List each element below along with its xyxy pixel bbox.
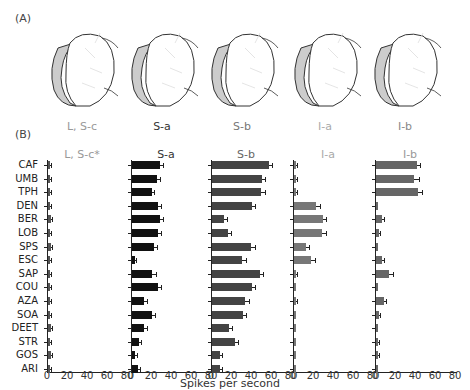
y-tick xyxy=(290,274,293,275)
y-tick xyxy=(208,355,211,356)
y-tick xyxy=(290,301,293,302)
y-tick xyxy=(372,192,375,193)
bar xyxy=(212,270,260,278)
bar xyxy=(294,229,322,237)
error-cap xyxy=(51,340,52,345)
x-tick-label: 60 xyxy=(343,370,363,381)
bar xyxy=(132,215,160,223)
y-tick xyxy=(44,165,47,166)
y-tick xyxy=(372,179,375,180)
y-tick xyxy=(128,369,131,370)
x-tick-label: 40 xyxy=(161,370,181,381)
error-cap xyxy=(227,217,228,222)
y-tick xyxy=(208,342,211,343)
bar xyxy=(132,175,157,183)
sensilla-label: I-a xyxy=(285,120,365,133)
bar xyxy=(212,215,224,223)
y-tick xyxy=(208,274,211,275)
bar xyxy=(212,175,262,183)
y-tick xyxy=(372,301,375,302)
error-cap xyxy=(51,204,52,209)
row-label: TPH xyxy=(0,186,38,198)
y-tick xyxy=(128,165,131,166)
y-tick xyxy=(44,301,47,302)
y-tick xyxy=(44,342,47,343)
error-cap xyxy=(161,204,162,209)
y-tick xyxy=(128,301,131,302)
x-axis-label: Spikes per second xyxy=(180,377,280,390)
error-cap xyxy=(52,353,53,358)
labellum-drawing-2 xyxy=(200,18,280,113)
y-tick xyxy=(372,355,375,356)
y-tick xyxy=(208,219,211,220)
bar xyxy=(376,202,378,210)
x-tick-label: 40 xyxy=(405,370,425,381)
error-cap xyxy=(297,163,298,168)
row-label: GOS xyxy=(0,349,38,361)
bar xyxy=(294,311,296,319)
error-cap xyxy=(136,258,137,263)
error-cap xyxy=(297,299,298,304)
bar xyxy=(212,256,242,264)
error-cap xyxy=(163,163,164,168)
error-cap xyxy=(157,245,158,250)
y-tick xyxy=(290,165,293,166)
row-label: STR xyxy=(0,336,38,348)
y-tick xyxy=(290,342,293,343)
y-tick xyxy=(208,328,211,329)
error-cap xyxy=(246,258,247,263)
y-tick xyxy=(372,328,375,329)
chart-title: I-a xyxy=(288,148,368,161)
bar xyxy=(212,283,252,291)
y-tick xyxy=(208,206,211,207)
row-label: CAF xyxy=(0,159,38,171)
bar xyxy=(376,175,414,183)
labellum-drawing-0 xyxy=(40,18,120,113)
error-cap xyxy=(326,231,327,236)
bar xyxy=(212,202,252,210)
error-cap xyxy=(320,204,321,209)
error-cap xyxy=(393,272,394,277)
y-tick xyxy=(128,342,131,343)
bar xyxy=(294,338,296,346)
row-label: DEN xyxy=(0,200,38,212)
y-tick xyxy=(372,260,375,261)
error-cap xyxy=(384,217,385,222)
bar xyxy=(376,188,418,196)
y-tick xyxy=(208,260,211,261)
y-tick xyxy=(208,165,211,166)
y-tick xyxy=(372,233,375,234)
error-cap xyxy=(154,190,155,195)
bar xyxy=(294,215,323,223)
error-cap xyxy=(380,231,381,236)
error-cap xyxy=(231,231,232,236)
bar xyxy=(212,161,269,169)
x-tick-label: 20 xyxy=(385,370,405,381)
error-cap xyxy=(422,190,423,195)
y-tick xyxy=(128,355,131,356)
chart-title: S-b xyxy=(206,148,286,161)
error-cap xyxy=(380,313,381,318)
bar xyxy=(212,188,261,196)
error-cap xyxy=(51,299,52,304)
error-cap xyxy=(255,245,256,250)
error-cap xyxy=(297,272,298,277)
error-cap xyxy=(309,245,310,250)
error-cap xyxy=(379,353,380,358)
error-cap xyxy=(249,299,250,304)
y-tick xyxy=(44,260,47,261)
y-tick xyxy=(128,287,131,288)
y-tick xyxy=(128,206,131,207)
error-cap xyxy=(246,313,247,318)
y-tick xyxy=(372,219,375,220)
y-tick xyxy=(290,179,293,180)
error-cap xyxy=(51,272,52,277)
chart-title: L, S-c* xyxy=(42,148,122,161)
bar xyxy=(132,161,160,169)
y-tick xyxy=(208,369,211,370)
error-cap xyxy=(155,313,156,318)
error-cap xyxy=(51,163,52,168)
error-cap xyxy=(51,258,52,263)
error-cap xyxy=(137,353,138,358)
error-cap xyxy=(265,190,266,195)
